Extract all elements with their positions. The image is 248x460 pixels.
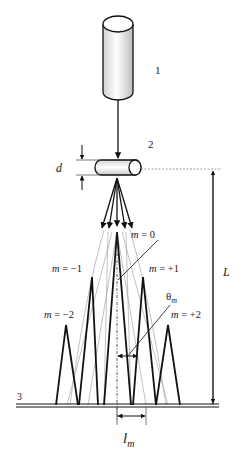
- spacing-label: lm: [123, 430, 134, 449]
- order-label-m+2: m = +2: [171, 309, 201, 320]
- order-pointer-m0: [118, 240, 158, 280]
- peak-m+1: [133, 277, 156, 405]
- screen-label: 3: [17, 391, 22, 402]
- source-tube: [103, 16, 133, 100]
- thickness-label: d: [56, 161, 63, 175]
- diffracted-beams: [102, 178, 132, 228]
- order-label-m-2: m = −2: [44, 309, 74, 320]
- peak-m-2: [56, 325, 78, 405]
- diffraction-diagram: 1 2 d L: [0, 0, 248, 460]
- crystal-label: 2: [148, 138, 154, 150]
- angle-label: θm: [166, 290, 177, 305]
- crystal: [95, 160, 141, 175]
- order-label-m-1: m = −1: [52, 263, 82, 274]
- order-label-m+1: m = +1: [149, 263, 179, 274]
- order-label-m0: m = 0: [131, 229, 155, 240]
- distance-label: L: [222, 265, 230, 279]
- source-label: 1: [155, 64, 161, 76]
